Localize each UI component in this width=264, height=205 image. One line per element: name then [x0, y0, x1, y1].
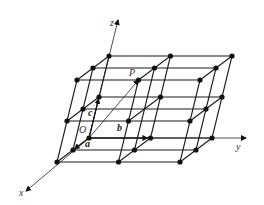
- lattice-point: [136, 77, 141, 82]
- lattice-point: [116, 159, 121, 164]
- lattice-point: [90, 65, 95, 70]
- lattice-point: [187, 118, 192, 123]
- lattice-point: [96, 94, 101, 99]
- lattice-point: [106, 53, 111, 58]
- lattice-point: [229, 53, 234, 58]
- lattice-point: [152, 65, 157, 70]
- vector-a-label: a: [85, 138, 90, 149]
- coordinate-axes: [26, 20, 246, 191]
- lattice-point: [132, 147, 137, 152]
- origin-label: O: [79, 124, 86, 135]
- lattice-point: [126, 118, 131, 123]
- lattice-point: [213, 65, 218, 70]
- lattice-point: [148, 135, 153, 140]
- lattice-point: [209, 135, 214, 140]
- vector-c-label: c: [88, 107, 93, 118]
- x-axis-label: x: [18, 187, 24, 198]
- lattice-point: [193, 147, 198, 152]
- lattice-point: [158, 94, 163, 99]
- lattice-point: [203, 106, 208, 111]
- z-axis-label: z: [109, 17, 114, 28]
- lattice-point: [74, 77, 79, 82]
- y-axis-label: y: [235, 141, 241, 152]
- lattice-point: [168, 53, 173, 58]
- lattice-point: [80, 106, 85, 111]
- lattice-point: [219, 94, 224, 99]
- lattice-point: [64, 118, 69, 123]
- point-p-label: P: [128, 67, 135, 78]
- lattice-point: [70, 147, 75, 152]
- lattice-point: [54, 159, 59, 164]
- lattice-point: [177, 159, 182, 164]
- vector-b-label: b: [117, 122, 122, 133]
- lattice-diagram: z y x O P a b c: [0, 0, 264, 205]
- lattice-point: [197, 77, 202, 82]
